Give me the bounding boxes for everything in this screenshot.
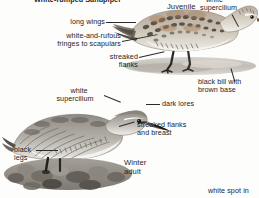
plate-title: White-rumped Sandpiper xyxy=(34,0,121,4)
annotation-black-legs-line2: legs xyxy=(14,154,27,162)
leader-dark-lores xyxy=(146,104,160,105)
annotation-white-spot: white spot in xyxy=(208,187,249,195)
figure-name-winter-adult-line1: Winter xyxy=(124,159,146,167)
figure-name-juvenile: Juvenile xyxy=(167,3,195,11)
annotation-white-supercilium-winter-line2: supercilium xyxy=(48,95,102,103)
annotation-streaked-flanks-breast-line2: and breast xyxy=(137,129,172,137)
annotation-streaked-flanks-line2: flanks xyxy=(86,61,138,69)
annotation-dark-lores: dark lores xyxy=(162,100,194,108)
annotation-black-bill-line2: brown base xyxy=(198,86,236,94)
winter-adult-bird-illustration xyxy=(2,92,172,196)
field-guide-plate: White-rumped Sandpiper Juvenile white su… xyxy=(0,0,259,198)
leader-black-legs xyxy=(36,150,58,151)
annotation-long-wings: long wings xyxy=(48,18,105,26)
annotation-white-and-rufous-line2: fringes to scapulars xyxy=(28,40,121,48)
annotation-white-supercilium-juvenile-line2: supercilium xyxy=(200,4,237,12)
figure-name-winter-adult-line2: adult xyxy=(124,168,141,176)
leader-long-wings xyxy=(106,22,136,23)
